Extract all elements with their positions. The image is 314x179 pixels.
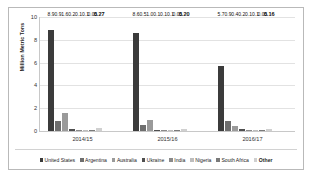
bar[interactable]: 0.1: [154, 130, 160, 131]
y-axis-tick: 2: [23, 104, 37, 112]
bar-value-label: 0.20: [179, 11, 190, 17]
legend-swatch-icon: [40, 158, 43, 161]
legend-swatch-icon: [142, 158, 145, 161]
bar[interactable]: 0.1: [161, 130, 167, 131]
legend-item-other[interactable]: Other: [254, 157, 273, 163]
bar-value-label: 0.16: [264, 11, 275, 17]
y-axis-tick: 0: [23, 127, 37, 135]
bar[interactable]: 0.20: [181, 129, 187, 131]
legend-item-ukraine[interactable]: Ukraine: [142, 157, 165, 163]
bar-slot: 1.6: [61, 17, 68, 131]
x-axis-category-label: 2016/17: [210, 136, 295, 142]
bar-slot: 0.4: [231, 17, 238, 131]
legend-swatch-icon: [169, 158, 172, 161]
bar-slot: 0.27: [96, 17, 103, 131]
bar-group-bars: 5.70.90.40.20.10.10.050.16: [210, 17, 295, 131]
y-axis-tick: 8: [23, 36, 37, 44]
y-axis-tick: 4: [23, 81, 37, 89]
bar-group-bars: 8.90.91.60.20.10.10.050.27: [40, 17, 125, 131]
bar-slot: 0.9: [55, 17, 62, 131]
legend-label: Other: [259, 157, 273, 163]
y-axis-tick: 10: [23, 13, 37, 21]
y-axis-tick: 6: [23, 59, 37, 67]
legend-swatch-icon: [254, 158, 257, 161]
bar[interactable]: 0.16: [266, 129, 272, 131]
bar[interactable]: 0.1: [168, 130, 174, 131]
bar-slot: 0.2: [238, 17, 245, 131]
chart-legend: United StatesArgentinaAustraliaUkraineIn…: [9, 153, 303, 167]
bar-slot: 0.05: [89, 17, 96, 131]
legend-item-argentina[interactable]: Argentina: [80, 157, 107, 163]
bar-slot: 0.1: [252, 17, 259, 131]
plot-area: 8.90.91.60.20.10.10.050.272014/158.60.51…: [39, 17, 295, 132]
bar[interactable]: 8.9: [48, 30, 54, 131]
bar[interactable]: 0.9: [225, 121, 231, 131]
x-axis-category-label: 2014/15: [40, 136, 125, 142]
legend-item-australia[interactable]: Australia: [112, 157, 137, 163]
bar-slot: 0.1: [153, 17, 160, 131]
bar[interactable]: 0.1: [246, 130, 252, 131]
bar[interactable]: 0.05: [259, 130, 265, 131]
legend-item-united-states[interactable]: United States: [40, 157, 76, 163]
bar-value-label: 0.27: [94, 11, 105, 17]
legend-label: Nigeria: [195, 157, 211, 163]
bar-slot: 0.2: [68, 17, 75, 131]
bar-group: 8.90.91.60.20.10.10.050.272014/15: [40, 17, 125, 131]
bar[interactable]: 0.4: [232, 126, 238, 131]
bar-group-bars: 8.60.51.00.10.10.10.050.20: [125, 17, 210, 131]
bar[interactable]: 0.27: [96, 128, 102, 131]
bar-slot: 0.5: [140, 17, 147, 131]
legend-label: India: [174, 157, 185, 163]
legend-swatch-icon: [112, 158, 115, 161]
legend-item-nigeria[interactable]: Nigeria: [190, 157, 211, 163]
bar-slot: 0.1: [167, 17, 174, 131]
plot-area-wrapper: Million Metric Tons 0246810 8.90.91.60.2…: [9, 8, 303, 169]
bar[interactable]: 0.2: [69, 129, 75, 131]
chart-container: Million Metric Tons 0246810 8.90.91.60.2…: [8, 7, 304, 170]
bar-slot: 0.1: [245, 17, 252, 131]
bar[interactable]: 0.5: [140, 125, 146, 131]
y-axis-tick-labels: 0246810: [23, 17, 37, 131]
bar-group: 8.60.51.00.10.10.10.050.202015/16: [125, 17, 210, 131]
x-axis-category-label: 2015/16: [125, 136, 210, 142]
bar[interactable]: 1.0: [147, 120, 153, 131]
legend-label: Ukraine: [147, 157, 165, 163]
bar-group: 5.70.90.40.20.10.10.050.162016/17: [210, 17, 295, 131]
legend-item-south-africa[interactable]: South Africa: [216, 157, 248, 163]
legend-label: Australia: [117, 157, 137, 163]
bar-slot: 8.6: [133, 17, 140, 131]
legend-swatch-icon: [216, 158, 219, 161]
bar[interactable]: 0.2: [239, 129, 245, 131]
bar[interactable]: 0.1: [76, 130, 82, 131]
bar[interactable]: 0.9: [55, 121, 61, 131]
bar-slot: 0.9: [225, 17, 232, 131]
bar[interactable]: 5.7: [218, 66, 224, 131]
bar-slot: 0.05: [174, 17, 181, 131]
bar-groups: 8.90.91.60.20.10.10.050.272014/158.60.51…: [40, 17, 295, 131]
bar[interactable]: 0.1: [83, 130, 89, 131]
bar-slot: 5.7: [218, 17, 225, 131]
legend-label: United States: [45, 157, 76, 163]
bar-slot: 0.1: [82, 17, 89, 131]
legend-swatch-icon: [80, 158, 83, 161]
bar[interactable]: 0.05: [174, 130, 180, 131]
bar-slot: 8.9: [48, 17, 55, 131]
bar-slot: 0.1: [75, 17, 82, 131]
legend-label: Argentina: [85, 157, 107, 163]
bar-slot: 0.16: [266, 17, 273, 131]
bar-slot: 0.1: [160, 17, 167, 131]
bar-slot: 0.05: [259, 17, 266, 131]
bar[interactable]: 1.6: [62, 113, 68, 131]
legend-item-india[interactable]: India: [169, 157, 185, 163]
legend-swatch-icon: [190, 158, 193, 161]
bar-slot: 0.20: [181, 17, 188, 131]
bar-slot: 1.0: [146, 17, 153, 131]
bar[interactable]: 0.05: [89, 130, 95, 131]
legend-label: South Africa: [221, 157, 248, 163]
bar[interactable]: 8.6: [133, 33, 139, 131]
legend-separator: [15, 149, 297, 150]
bar[interactable]: 0.1: [253, 130, 259, 131]
